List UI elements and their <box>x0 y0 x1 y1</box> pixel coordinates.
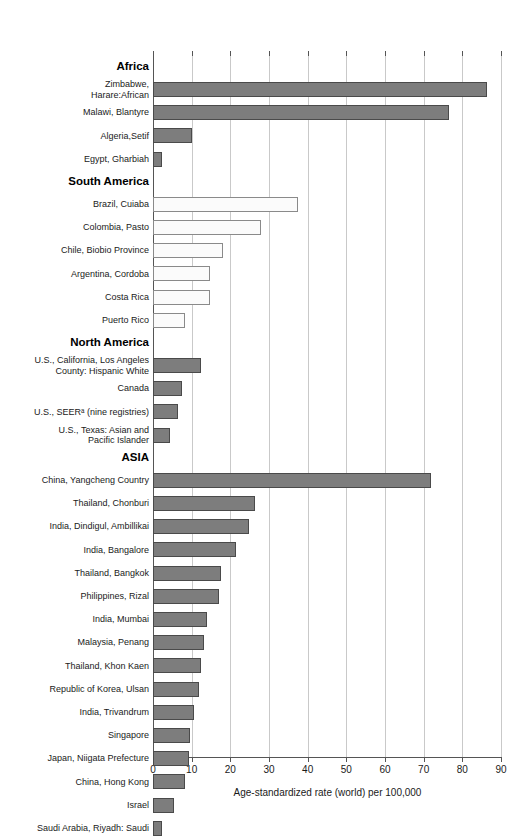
chart-row: Zimbabwe,Harare:African <box>0 78 532 101</box>
x-tick-top-80 <box>462 51 463 56</box>
chart-row: Japan, Niigata Prefecture <box>0 747 532 770</box>
bar <box>153 243 223 258</box>
chart-row: Chile, Biobio Province <box>0 239 532 262</box>
chart-row: India, Trivandrum <box>0 701 532 724</box>
bar <box>153 635 204 650</box>
chart-row: Algeria,Setif <box>0 124 532 147</box>
row-label: Colombia, Pasto <box>0 216 149 239</box>
section-header-south-america: South America <box>0 171 149 191</box>
bar <box>153 496 255 511</box>
chart-row: U.S., Texas: Asian andPacific Islander <box>0 424 532 447</box>
row-label: China, Yangcheng Country <box>0 469 149 492</box>
bar <box>153 197 298 212</box>
bar <box>153 774 185 789</box>
row-label: Republic of Korea, Ulsan <box>0 678 149 701</box>
x-tick-top-20 <box>230 51 231 56</box>
x-tick-top-50 <box>346 51 347 56</box>
row-label: U.S., SEERᵃ (nine registries) <box>0 400 149 423</box>
bar <box>153 542 236 557</box>
chart-row: India, Mumbai <box>0 608 532 631</box>
x-tick-top-0 <box>153 51 154 56</box>
row-label: Japan, Niigata Prefecture <box>0 747 149 770</box>
bar <box>153 428 170 443</box>
bar <box>153 220 261 235</box>
row-label: Thailand, Bangkok <box>0 562 149 585</box>
chart-row: Brazil, Cuiaba <box>0 193 532 216</box>
section-header-north-america: North America <box>0 332 149 352</box>
chart-row: Saudi Arabia, Riyadh: Saudi <box>0 817 532 840</box>
chart-row: Thailand, Bangkok <box>0 562 532 585</box>
bar <box>153 358 201 373</box>
row-label: Thailand, Khon Kaen <box>0 654 149 677</box>
chart-row: Singapore <box>0 724 532 747</box>
bar <box>153 682 199 697</box>
bar <box>153 658 201 673</box>
row-label: U.S., Texas: Asian andPacific Islander <box>0 424 149 447</box>
chart-row: Malawi, Blantyre <box>0 101 532 124</box>
row-label: Costa Rica <box>0 286 149 309</box>
row-label: Egypt, Gharbiah <box>0 148 149 171</box>
chart-row: India, Dindigul, Ambillikai <box>0 515 532 538</box>
row-label: Algeria,Setif <box>0 124 149 147</box>
bar <box>153 728 190 743</box>
chart-row: Colombia, Pasto <box>0 216 532 239</box>
bar <box>153 519 249 534</box>
chart-row: Republic of Korea, Ulsan <box>0 678 532 701</box>
bar <box>153 404 178 419</box>
row-label: India, Trivandrum <box>0 701 149 724</box>
x-tick-top-90 <box>501 51 502 56</box>
row-label: Israel <box>0 794 149 817</box>
bar <box>153 566 221 581</box>
chart-row: China, Yangcheng Country <box>0 469 532 492</box>
chart-row: U.S., California, Los AngelesCounty: His… <box>0 354 532 377</box>
chart-row: India, Bangalore <box>0 538 532 561</box>
row-label: Canada <box>0 377 149 400</box>
bar <box>153 821 162 836</box>
x-tick-top-10 <box>192 51 193 56</box>
section-header-africa: Africa <box>0 56 149 76</box>
section-header-asia: ASIA <box>0 447 149 467</box>
chart-row: Costa Rica <box>0 286 532 309</box>
bar <box>153 473 431 488</box>
chart-row: China, Hong Kong <box>0 770 532 793</box>
row-label: India, Mumbai <box>0 608 149 631</box>
chart-row: Thailand, Chonburi <box>0 492 532 515</box>
bar <box>153 105 449 120</box>
row-label: India, Dindigul, Ambillikai <box>0 515 149 538</box>
x-tick-top-70 <box>424 51 425 56</box>
chart-row: U.S., SEERᵃ (nine registries) <box>0 400 532 423</box>
bar <box>153 290 210 305</box>
row-label: Thailand, Chonburi <box>0 492 149 515</box>
chart-row: Israel <box>0 794 532 817</box>
row-label: Chile, Biobio Province <box>0 239 149 262</box>
row-label: Zimbabwe,Harare:African <box>0 78 149 101</box>
chart-row: Malaysia, Penang <box>0 631 532 654</box>
x-tick-top-60 <box>385 51 386 56</box>
bar <box>153 751 189 766</box>
row-label: Argentina, Cordoba <box>0 262 149 285</box>
row-label: China, Hong Kong <box>0 770 149 793</box>
row-label: Malaysia, Penang <box>0 631 149 654</box>
chart-row: Canada <box>0 377 532 400</box>
bar <box>153 266 210 281</box>
x-tick-top-30 <box>269 51 270 56</box>
row-label: Malawi, Blantyre <box>0 101 149 124</box>
row-label: Singapore <box>0 724 149 747</box>
row-label: Philippines, Rizal <box>0 585 149 608</box>
bar <box>153 152 162 167</box>
row-label: India, Bangalore <box>0 538 149 561</box>
bar <box>153 612 207 627</box>
bar <box>153 798 174 813</box>
row-label: Brazil, Cuiaba <box>0 193 149 216</box>
row-label: Puerto Rico <box>0 309 149 332</box>
bar <box>153 313 185 328</box>
bar <box>153 705 194 720</box>
bar <box>153 128 192 143</box>
chart-row: Thailand, Khon Kaen <box>0 654 532 677</box>
bar <box>153 589 219 604</box>
chart-row: Philippines, Rizal <box>0 585 532 608</box>
bar <box>153 82 487 97</box>
row-label: Saudi Arabia, Riyadh: Saudi <box>0 817 149 840</box>
row-label: U.S., California, Los AngelesCounty: His… <box>0 354 149 377</box>
